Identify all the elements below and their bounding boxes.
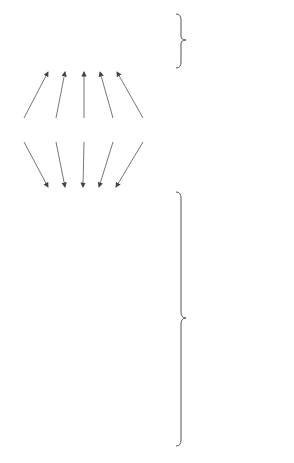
arrow-the2-embedding xyxy=(100,72,113,118)
arrow-cat-embedding xyxy=(56,72,65,118)
arrow-hat-onehot xyxy=(116,142,143,187)
arrow-the-embedding xyxy=(24,72,48,118)
arrow-the-onehot xyxy=(24,142,48,187)
diagram-canvas xyxy=(0,0,294,463)
arrow-hat-embedding xyxy=(117,72,143,118)
brace-onehot xyxy=(176,192,186,446)
arrow-in-onehot xyxy=(83,142,84,187)
arrows-layer xyxy=(0,0,294,463)
arrow-the2-onehot xyxy=(99,142,113,187)
brace-embeddings xyxy=(176,14,186,68)
arrow-cat-onehot xyxy=(56,142,65,187)
